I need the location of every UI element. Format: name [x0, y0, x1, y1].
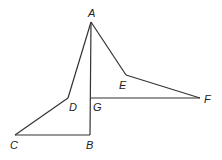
segment-ad — [68, 22, 91, 98]
label-e: E — [119, 79, 127, 91]
label-d: D — [69, 101, 77, 113]
segment-ae — [91, 22, 126, 75]
segments — [15, 22, 200, 135]
label-f: F — [204, 93, 212, 105]
geometry-diagram: A B C D E F G — [0, 0, 222, 160]
label-a: A — [87, 7, 95, 19]
segment-ef — [126, 75, 200, 98]
diagram-svg: A B C D E F G — [0, 0, 222, 160]
label-c: C — [10, 139, 18, 151]
label-g: G — [93, 101, 102, 113]
segment-dc — [15, 98, 68, 135]
segment-ba — [90, 22, 91, 135]
label-b: B — [86, 139, 93, 151]
point-labels: A B C D E F G — [10, 7, 212, 151]
